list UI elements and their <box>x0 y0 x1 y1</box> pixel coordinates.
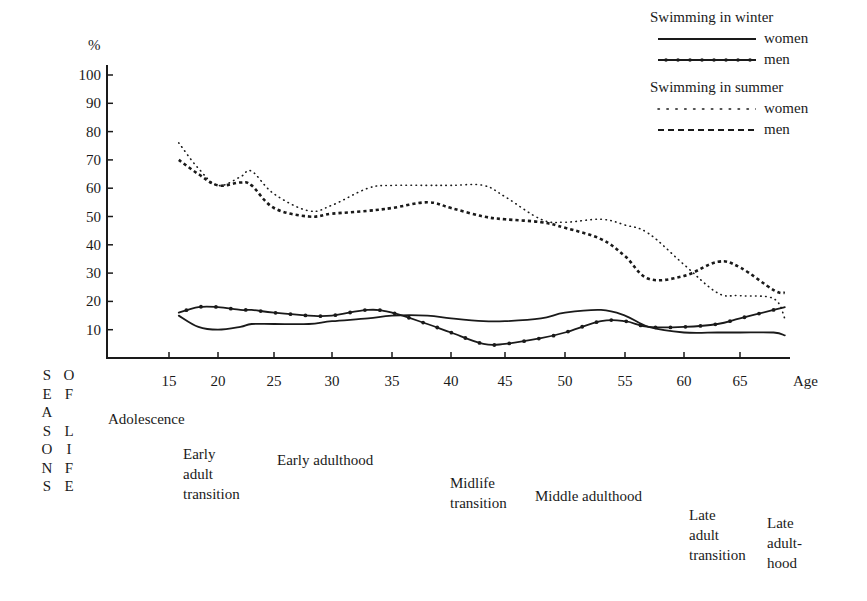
line-marker <box>229 307 233 311</box>
y-tick-label: 40 <box>86 237 101 253</box>
line-marker <box>407 316 411 320</box>
line-marker <box>669 325 673 329</box>
letter: F <box>62 459 76 478</box>
line-marker <box>580 325 584 329</box>
y-tick-label: 80 <box>86 124 101 140</box>
winter-men-line <box>179 306 785 345</box>
line-marker <box>289 312 293 316</box>
legend-label: women <box>764 30 808 47</box>
line-marker <box>743 315 747 319</box>
y-tick-label: 30 <box>86 265 101 281</box>
letter: N <box>40 459 54 478</box>
y-tick-label: 10 <box>86 322 101 338</box>
line-marker <box>639 324 643 328</box>
line-marker <box>274 311 278 315</box>
line-marker <box>684 325 688 329</box>
line-marker <box>507 342 511 346</box>
letter: E <box>40 385 54 404</box>
dashed-line-swatch-icon <box>656 125 756 135</box>
stage-early-adult-transition: Early adult transition <box>183 444 240 504</box>
letter: L <box>62 422 76 441</box>
y-tick-label: 90 <box>86 95 101 111</box>
line-marker <box>304 313 308 317</box>
legend-item-summer-men: men <box>650 119 860 140</box>
letter: F <box>62 385 76 404</box>
letter: S <box>40 477 54 496</box>
legend-label: men <box>764 51 790 68</box>
y-tick-label: 50 <box>86 209 101 225</box>
x-axis-title: Age <box>793 373 818 389</box>
line-marker <box>728 319 732 323</box>
line-marker <box>609 318 613 322</box>
line-marker <box>699 324 703 328</box>
x-tick-label: 20 <box>211 373 226 389</box>
line-marker <box>522 339 526 343</box>
letter: S <box>40 422 54 441</box>
y-axis-unit: % <box>88 37 101 53</box>
letter: O <box>62 366 76 385</box>
stage-midlife-transition: Midlife transition <box>450 473 507 513</box>
legend-group-title-winter: Swimming in winter <box>650 6 860 28</box>
legend-item-winter-women: women <box>650 28 860 49</box>
x-tick-label: 55 <box>618 373 633 389</box>
stage-middle-adulthood: Middle adulthood <box>535 487 642 505</box>
legend-label: women <box>764 100 808 117</box>
line-marker <box>772 308 776 312</box>
stage-late-adult-transition: Late adult transition <box>689 505 746 565</box>
line-marker <box>595 320 599 324</box>
line-marker <box>654 325 658 329</box>
x-tick-label: 25 <box>267 373 282 389</box>
line-marker <box>348 311 352 315</box>
x-tick-label: 35 <box>385 373 400 389</box>
line-marker <box>463 336 467 340</box>
legend-label: men <box>764 121 790 138</box>
letter <box>62 403 76 422</box>
line-marker <box>244 308 248 312</box>
line-marker <box>333 313 337 317</box>
line-marker <box>492 343 496 347</box>
letter: S <box>40 366 54 385</box>
summer-women-line <box>179 143 785 319</box>
y-tick-label: 60 <box>86 180 101 196</box>
stage-adolescence: Adolescence <box>108 410 185 428</box>
line-marker <box>757 312 761 316</box>
of-life-label-column: O F L I F E <box>62 366 76 496</box>
line-marker <box>363 308 367 312</box>
letter: A <box>40 403 54 422</box>
letter: E <box>62 477 76 496</box>
line-marker <box>378 308 382 312</box>
solid-line-swatch-icon <box>656 34 756 44</box>
legend-item-winter-men: men <box>650 49 860 70</box>
line-marker <box>214 305 218 309</box>
series-layer <box>179 143 785 347</box>
x-tick-label: 50 <box>558 373 573 389</box>
x-tick-label: 15 <box>162 373 177 389</box>
stage-late-adulthood: Late adult- hood <box>767 513 802 573</box>
line-marker <box>199 305 203 309</box>
line-marker <box>552 334 556 338</box>
line-marker <box>478 341 482 345</box>
line-marker <box>319 314 323 318</box>
line-marker <box>435 326 439 330</box>
legend-group-title-summer: Swimming in summer <box>650 76 860 98</box>
line-marker <box>184 308 188 312</box>
winter-women-line <box>179 310 785 336</box>
y-tick-label: 100 <box>79 67 102 83</box>
dotted-line-swatch-icon <box>656 104 756 114</box>
x-tick-label: 30 <box>325 373 340 389</box>
letter: I <box>62 440 76 459</box>
line-marker <box>537 337 541 341</box>
legend: Swimming in winter women men Swimming in… <box>650 6 860 140</box>
marked-line-swatch-icon <box>656 55 756 65</box>
y-tick-label: 20 <box>86 293 101 309</box>
x-tick-label: 40 <box>444 373 459 389</box>
line-marker <box>393 311 397 315</box>
x-tick-label: 45 <box>498 373 513 389</box>
seasons-label-column: S E A S O N S <box>40 366 54 496</box>
stage-early-adulthood: Early adulthood <box>277 451 373 469</box>
line-marker <box>421 321 425 325</box>
line-marker <box>624 319 628 323</box>
x-tick-label: 60 <box>677 373 692 389</box>
line-marker <box>566 330 570 334</box>
letter: O <box>40 440 54 459</box>
